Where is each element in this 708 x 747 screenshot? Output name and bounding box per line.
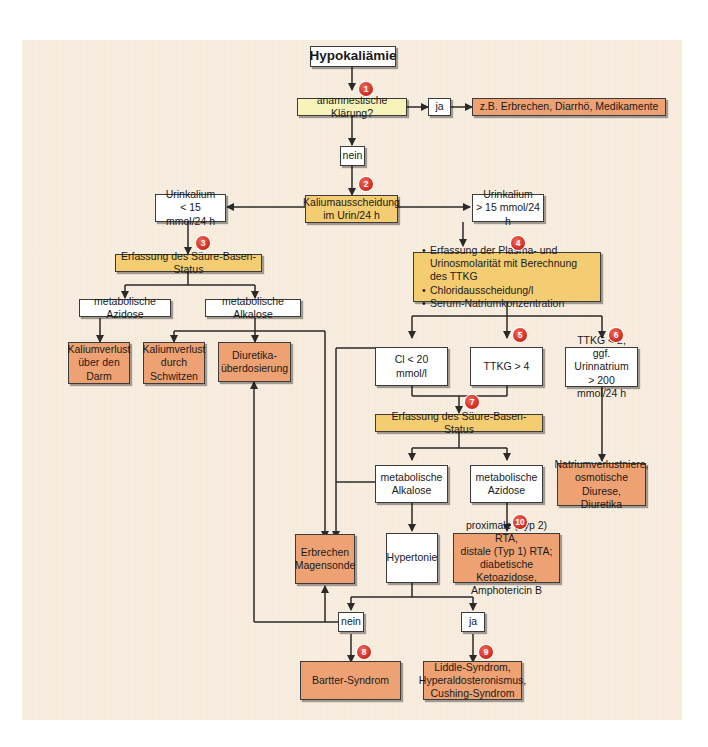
node-liddle-syndrom: Liddle-Syndrom, Hyperaldosteronismus, Cu… [423,661,522,700]
node-metabolische-alkalose-right: metabolische Alkalose [375,465,448,503]
step-badge-4: 4 [511,236,525,250]
natrium-line1: Natriumverlustniere, [555,458,649,471]
natrium-line2: osmotische Diurese, [561,471,642,497]
step-badge-9: 9 [479,645,493,659]
natrium-line3: Diuretika [581,498,622,511]
node-erfassung-osmolaritaet: Erfassung der Plasma- und Urinosmolaritä… [413,252,601,302]
erfassung-list: Erfassung der Plasma- und Urinosmolaritä… [422,244,592,310]
urin-high-line2: > 15 mmol/24 h [476,201,540,227]
rta-line2: distale (Typ 1) RTA; [461,545,553,558]
node-natriumverlustniere: Natriumverlustniere, osmotische Diurese,… [557,463,646,506]
liddle-line1: Liddle-Syndrom, [434,661,510,674]
erfassung-item-natrium: Serum-Natriumkonzentration [422,297,592,310]
node-anamnese-ja: ja [428,98,451,116]
node-urinkalium-low: Urinkalium < 15 mmol/24 h [155,194,226,222]
darm-line2: über den [78,356,119,369]
rta-line4: Amphotericin B [471,584,542,597]
node-rta-ketoazidose: proximale (Typ 2) RTA, distale (Typ 1) R… [453,533,560,583]
node-urinkalium-high: Urinkalium > 15 mmol/24 h [472,194,544,222]
kaliumausscheidung-line1: Kaliumausscheidung [303,196,400,209]
met-alkalose-right-line1: metabolische [381,471,443,484]
node-metabolische-azidose-left: metabolische Azidose [79,299,171,317]
urin-low-line1: Urinkalium [166,188,216,201]
darm-line3: Darm [86,370,112,383]
urin-high-line1: Urinkalium [483,188,533,201]
node-ttkg-gt-4: TTKG > 4 [470,347,543,386]
ttkg-lt2-line3: > 200 mmol/24 h [569,374,634,400]
met-alkalose-right-line2: Alkalose [392,484,432,497]
diuretika-line2: überdosierung [221,362,288,375]
schwitzen-line3: Schwitzen [150,370,198,383]
met-azidose-right-line1: metabolische [476,471,538,484]
node-bartter-syndrom: Bartter-Syndrom [300,661,401,700]
liddle-line2: Hyperaldosteronismus, [419,674,526,687]
erbrechen-line2: Magensonde [295,559,356,572]
node-kaliumausscheidung: Kaliumausscheidung im Urin/24 h [305,195,398,223]
urin-low-line2: < 15 mmol/24 h [159,201,222,227]
node-hypertonie-nein: nein [338,612,364,632]
rta-line3: diabetische Ketoazidose, [457,558,556,584]
kaliumausscheidung-line2: im Urin/24 h [323,209,380,222]
diuretika-line1: Diuretika- [232,349,277,362]
step-badge-10: 10 [513,515,527,529]
start-node-hypokaliaemie: Hypokaliämie [310,46,396,67]
node-metabolische-azidose-right: metabolische Azidose [470,465,543,503]
schwitzen-line1: Kaliumverlust [142,343,205,356]
node-erbrechen-diarrhoe-medikamente: z.B. Erbrechen, Diarrhö, Medikamente [472,98,666,116]
node-saeure-basen-status-right: Erfassung des Säure-Basen-Status [375,414,543,432]
step-badge-1: 1 [359,82,373,96]
step-badge-3: 3 [196,236,210,250]
step-badge-8: 8 [357,645,371,659]
rta-line1: proximale (Typ 2) RTA, [457,519,556,545]
node-kaliumverlust-schwitzen: Kaliumverlust durch Schwitzen [143,342,205,384]
erfassung-item-osmolaritaet: Erfassung der Plasma- und Urinosmolaritä… [422,244,592,283]
node-hypertonie: Hypertonie [386,533,438,583]
erbrechen-line1: Erbrechen [301,546,349,559]
node-erbrechen-magensonde: Erbrechen Magensonde [295,534,355,584]
node-kaliumverlust-darm: Kaliumverlust über den Darm [68,342,130,384]
met-azidose-right-line2: Azidose [488,484,525,497]
step-badge-2: 2 [359,177,373,191]
step-badge-6: 6 [609,328,623,342]
node-diuretika-ueberdosierung: Diuretika- überdosierung [218,342,291,382]
ttkg-lt2-line2: ggf. Urinnatrium [569,347,634,373]
step-badge-5: 5 [513,328,527,342]
step-badge-7: 7 [465,395,479,409]
node-metabolische-alkalose-left: metabolische Alkalose [205,299,301,317]
schwitzen-line2: durch [161,356,187,369]
node-ttkg-lt-2: TTKG < 2, ggf. Urinnatrium > 200 mmol/24… [565,347,638,387]
node-cl-lt-20: Cl < 20 mmol/l [375,347,448,386]
node-anamnese-nein: nein [340,146,365,166]
node-saeure-basen-status-left: Erfassung des Säure-Basen-Status [115,254,262,272]
darm-line1: Kaliumverlust [67,343,130,356]
liddle-line3: Cushing-Syndrom [430,687,514,700]
node-hypertonie-ja: ja [461,612,485,632]
erfassung-item-chlorid: Chloridausscheidung/l [422,284,592,297]
node-anamnestische-klaerung: anamnestische Klärung? [297,98,407,116]
